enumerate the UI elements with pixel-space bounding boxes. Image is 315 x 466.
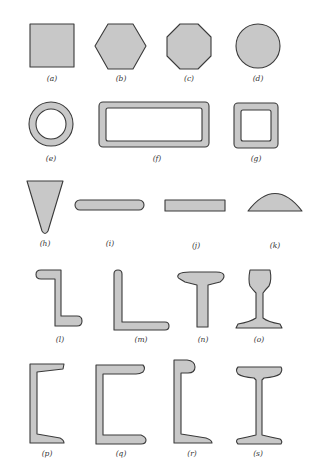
label-q: (q) bbox=[116, 449, 127, 458]
shape-f-rectangular-tube: (f) bbox=[99, 102, 209, 163]
label-e: (e) bbox=[46, 154, 56, 163]
label-h: (h) bbox=[40, 239, 51, 248]
label-s: (s) bbox=[253, 449, 263, 458]
shape-k-half-round: (k) bbox=[248, 194, 302, 251]
label-o: (o) bbox=[254, 335, 264, 344]
structural-shapes-diagram: (a) (b) (c) (d) (e) (f) (g) (h) (i) (j) bbox=[0, 0, 315, 466]
shape-h-triangle: (h) bbox=[27, 181, 63, 248]
label-b: (b) bbox=[116, 74, 127, 83]
shape-i-rounded-bar: (i) bbox=[75, 200, 144, 248]
shape-r-bulb-channel: (r) bbox=[174, 360, 212, 458]
label-a: (a) bbox=[47, 74, 57, 83]
shape-e-round-tube: (e) bbox=[29, 102, 73, 163]
label-n: (n) bbox=[198, 335, 209, 344]
label-p: (p) bbox=[42, 449, 53, 458]
label-m: (m) bbox=[135, 335, 148, 344]
shape-n-tee: (n) bbox=[178, 272, 224, 344]
shape-l-z-section: (l) bbox=[36, 270, 82, 344]
label-f: (f) bbox=[153, 154, 162, 163]
label-c: (c) bbox=[184, 74, 194, 83]
shape-p-tapered-channel: (p) bbox=[30, 364, 64, 458]
shape-s-i-beam: (s) bbox=[237, 367, 282, 458]
label-d: (d) bbox=[253, 74, 264, 83]
label-k: (k) bbox=[270, 241, 280, 250]
label-g: (g) bbox=[251, 154, 262, 163]
shape-d-circle: (d) bbox=[236, 24, 280, 83]
label-l: (l) bbox=[56, 335, 64, 344]
shape-c-octagon: (c) bbox=[167, 24, 211, 83]
label-j: (j) bbox=[192, 241, 200, 250]
shape-a-square: (a) bbox=[30, 24, 74, 83]
shape-g-square-tube: (g) bbox=[234, 103, 278, 163]
shape-b-hexagon: (b) bbox=[95, 24, 146, 83]
label-r: (r) bbox=[187, 449, 197, 458]
shape-j-flat-bar: (j) bbox=[165, 200, 225, 250]
shape-q-channel: (q) bbox=[96, 365, 146, 458]
label-i: (i) bbox=[106, 239, 114, 248]
shape-m-angle: (m) bbox=[114, 270, 169, 344]
shape-o-rail: (o) bbox=[236, 270, 282, 344]
